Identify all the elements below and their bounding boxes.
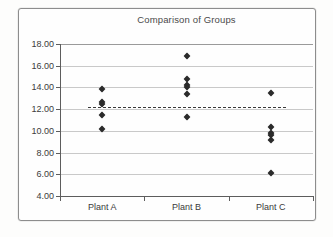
y-tick-label: 4.00 — [10, 191, 54, 201]
gridline — [60, 44, 313, 45]
y-tick-marks — [60, 44, 61, 196]
chart-title: Comparison of Groups — [60, 14, 313, 25]
x-tick-mark — [60, 196, 61, 201]
y-tick-mark — [56, 87, 60, 88]
y-tick-label: 8.00 — [10, 148, 54, 158]
data-point — [183, 114, 190, 121]
data-point — [267, 89, 274, 96]
x-axis-tick-labels: Plant APlant BPlant C — [60, 202, 313, 218]
data-point — [267, 136, 274, 143]
gridline — [60, 174, 313, 175]
y-tick-label: 6.00 — [10, 169, 54, 179]
gridline — [60, 109, 313, 110]
data-point — [99, 112, 106, 119]
data-point — [183, 52, 190, 59]
gridline — [60, 66, 313, 67]
gridline — [60, 153, 313, 154]
y-tick-label: 14.00 — [10, 82, 54, 92]
reference-line — [88, 107, 286, 108]
y-tick-label: 18.00 — [10, 39, 54, 49]
data-point — [183, 91, 190, 98]
y-tick-mark — [56, 109, 60, 110]
y-tick-mark — [56, 131, 60, 132]
data-point — [267, 170, 274, 177]
x-tick-mark — [144, 196, 145, 201]
y-tick-mark — [56, 153, 60, 154]
x-tick-mark — [313, 196, 314, 201]
x-tick-mark — [229, 196, 230, 201]
plot-area — [60, 44, 313, 196]
y-tick-mark — [56, 44, 60, 45]
chart-figure: Comparison of Groups 18.0016.0014.0012.0… — [0, 0, 333, 237]
x-tick-label-plant-a: Plant A — [88, 202, 117, 212]
y-axis-tick-labels: 18.0016.0014.0012.0010.008.006.004.00 — [6, 44, 54, 196]
y-tick-label: 12.00 — [10, 104, 54, 114]
x-tick-label-plant-c: Plant C — [256, 202, 286, 212]
gridline — [60, 131, 313, 132]
y-tick-mark — [56, 66, 60, 67]
y-tick-label: 10.00 — [10, 126, 54, 136]
x-tick-label-plant-b: Plant B — [172, 202, 201, 212]
y-tick-label: 16.00 — [10, 61, 54, 71]
y-tick-mark — [56, 174, 60, 175]
